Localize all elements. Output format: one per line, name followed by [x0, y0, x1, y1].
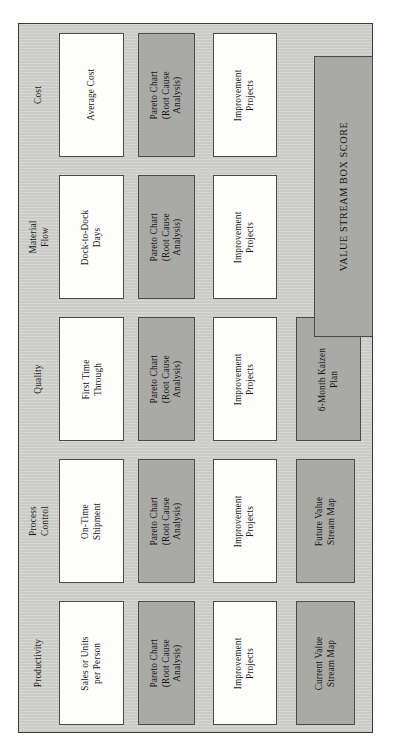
category-header-label: Quality	[33, 364, 45, 393]
improvement-projects-box-label: ImprovementProjects	[233, 637, 256, 689]
pareto-chart-box-label: Pareto Chart(Root CauseAnalysis)	[149, 213, 184, 262]
category-header-label: Productivity	[33, 639, 45, 687]
category-header-material-flow: MaterialFlow	[19, 175, 59, 299]
value-stream-box-score-block[interactable]: VALUE STREAM BOX SCORE	[314, 56, 373, 337]
improvement-projects-box-cost[interactable]: ImprovementProjects	[213, 33, 277, 157]
pareto-chart-box-label: Pareto Chart(Root CauseAnalysis)	[149, 355, 184, 404]
category-header-label: MaterialFlow	[28, 220, 51, 253]
metric-box-label: Sales or Unitsper Person	[80, 636, 103, 690]
supporting-artifact-box-label: Future ValueStream Map	[314, 496, 337, 545]
category-header-cost: Cost	[19, 33, 59, 157]
category-header-label: ProcessControl	[28, 506, 51, 536]
pareto-chart-box-label: Pareto Chart(Root CauseAnalysis)	[149, 639, 184, 688]
metric-box-label: On-TimeShipment	[80, 503, 103, 540]
improvement-projects-box-quality[interactable]: ImprovementProjects	[213, 317, 277, 441]
improvement-projects-box-process-control[interactable]: ImprovementProjects	[213, 459, 277, 583]
category-header-productivity: Productivity	[19, 601, 59, 725]
metric-box-material-flow[interactable]: Dock-to-DockDays	[59, 175, 124, 299]
pareto-chart-box-label: Pareto Chart(Root CauseAnalysis)	[149, 71, 184, 120]
pareto-chart-box-productivity[interactable]: Pareto Chart(Root CauseAnalysis)	[138, 601, 195, 725]
metric-box-quality[interactable]: First TimeThrough	[59, 317, 124, 441]
metric-box-label: Dock-to-DockDays	[80, 209, 103, 265]
improvement-projects-box-label: ImprovementProjects	[233, 69, 256, 121]
improvement-projects-box-label: ImprovementProjects	[233, 495, 256, 547]
improvement-projects-box-label: ImprovementProjects	[233, 353, 256, 405]
pareto-chart-box-material-flow[interactable]: Pareto Chart(Root CauseAnalysis)	[138, 175, 195, 299]
pareto-chart-box-process-control[interactable]: Pareto Chart(Root CauseAnalysis)	[138, 459, 195, 583]
category-header-label: Cost	[33, 86, 45, 104]
pareto-chart-box-quality[interactable]: Pareto Chart(Root CauseAnalysis)	[138, 317, 195, 441]
improvement-projects-box-label: ImprovementProjects	[233, 211, 256, 263]
diagram-panel: ProductivitySales or Unitsper PersonPare…	[18, 23, 373, 733]
metric-box-process-control[interactable]: On-TimeShipment	[59, 459, 124, 583]
scanned-page: ProductivitySales or Unitsper PersonPare…	[0, 0, 394, 752]
pareto-chart-box-label: Pareto Chart(Root CauseAnalysis)	[149, 497, 184, 546]
category-header-process-control: ProcessControl	[19, 459, 59, 583]
metric-box-label: Average Cost	[86, 69, 98, 121]
category-row-process-control: ProcessControlOn-TimeShipmentPareto Char…	[19, 459, 374, 583]
supporting-artifact-box-process-control[interactable]: Future ValueStream Map	[296, 459, 355, 583]
improvement-projects-box-material-flow[interactable]: ImprovementProjects	[213, 175, 277, 299]
metric-box-label: First TimeThrough	[80, 359, 103, 399]
pareto-chart-box-cost[interactable]: Pareto Chart(Root CauseAnalysis)	[138, 33, 195, 157]
category-row-productivity: ProductivitySales or Unitsper PersonPare…	[19, 601, 374, 725]
improvement-projects-box-productivity[interactable]: ImprovementProjects	[213, 601, 277, 725]
supporting-artifact-box-productivity[interactable]: Current ValueStream Map	[296, 601, 355, 725]
metric-box-productivity[interactable]: Sales or Unitsper Person	[59, 601, 124, 725]
category-header-quality: Quality	[19, 317, 59, 441]
value-stream-box-score-label: VALUE STREAM BOX SCORE	[338, 122, 349, 272]
supporting-artifact-box-label: Current ValueStream Map	[314, 636, 337, 690]
metric-box-cost[interactable]: Average Cost	[59, 33, 124, 157]
supporting-artifact-box-label: 6-Month KaizenPlan	[317, 347, 340, 410]
